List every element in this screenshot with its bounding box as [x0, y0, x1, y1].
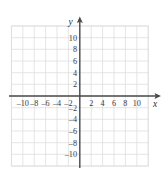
coordinate-plane-figure: –10 –8 –6 –4 –2 2 4 6 8 10 10 8 6 4 2 –2…	[0, 0, 164, 176]
x-tick-label: –6	[41, 99, 50, 108]
y-tick-label: –4	[68, 115, 77, 124]
x-tick-labels: –10 –8 –6 –4 –2 2 4 6 8 10	[16, 99, 141, 108]
y-tick-label: 8	[73, 45, 77, 54]
y-tick-label: –6	[68, 127, 77, 136]
x-tick-label: 10	[133, 99, 141, 108]
x-tick-label: –4	[52, 99, 61, 108]
x-tick-label: 8	[123, 99, 127, 108]
coordinate-grid-chart: –10 –8 –6 –4 –2 2 4 6 8 10 10 8 6 4 2 –2…	[0, 0, 164, 176]
y-tick-label: 2	[73, 80, 77, 89]
y-tick-label: –2	[68, 104, 77, 113]
y-axis	[77, 17, 83, 169]
y-axis-label: y	[68, 17, 74, 27]
y-tick-label: 6	[73, 57, 77, 66]
x-axis-label: x	[152, 99, 158, 109]
x-tick-label: 4	[101, 99, 105, 108]
y-tick-label: –10	[64, 150, 77, 159]
x-tick-label: –10	[16, 99, 29, 108]
y-tick-label: 4	[73, 69, 77, 78]
x-tick-label: 2	[89, 99, 93, 108]
x-tick-label: –8	[29, 99, 38, 108]
x-tick-label: 6	[112, 99, 116, 108]
y-tick-label: 10	[69, 34, 77, 43]
y-tick-label: –8	[68, 139, 77, 148]
